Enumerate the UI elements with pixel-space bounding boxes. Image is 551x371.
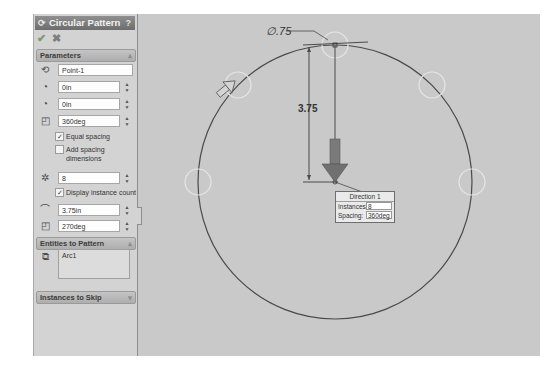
direction-arrow-icon[interactable] (322, 164, 348, 182)
radius-spinner[interactable]: ▲▼ (123, 204, 131, 216)
add-spacing-dimensions-label: Add spacing dimensions (66, 145, 112, 163)
pattern-axis-icon: ⟲ (38, 63, 52, 76)
entities-list[interactable]: Arc1 (58, 249, 130, 279)
panel-title: Circular Pattern (49, 16, 120, 30)
graphics-area[interactable]: ∅.75 3.75 (138, 14, 540, 356)
parameters-header-label: Parameters (40, 50, 81, 61)
center-y-field[interactable]: 0in (58, 98, 120, 110)
callout-instances-row: Instances: 8 (336, 202, 394, 211)
dimension-arrow-icon (307, 175, 311, 180)
cancel-button[interactable]: ✖ (52, 32, 61, 44)
center-y-spinner[interactable]: ▲▼ (123, 98, 131, 110)
center-x-icon: ◔ (38, 80, 52, 93)
angle-icon: ◰ (38, 114, 52, 127)
parameters-group-header[interactable]: Parameters ⩓ (36, 49, 136, 62)
callout-instances-label: Instances: (338, 203, 368, 210)
center-x-spinner[interactable]: ▲▼ (123, 81, 131, 93)
direction-callout: Direction 1 Instances: 8 Spacing: 360deg (335, 191, 395, 223)
direction-arrow-shaft[interactable] (330, 139, 340, 164)
radius-field[interactable]: 3.75in (58, 204, 120, 216)
equal-spacing-checkbox[interactable]: ✓Equal spacing (55, 132, 110, 141)
radius-dimension[interactable]: 3.75 (298, 103, 318, 114)
callout-spacing-row: Spacing: 360deg (336, 211, 394, 220)
property-manager-panel: ⟳ Circular Pattern ? ✔ ✖ Parameters ⩓ ⟲ … (33, 14, 138, 356)
instances-spinner[interactable]: ▲▼ (123, 172, 131, 184)
equal-spacing-label: Equal spacing (66, 132, 110, 141)
angle-spinner[interactable]: ▲▼ (123, 115, 131, 127)
arc-angle-spinner[interactable]: ▲▼ (123, 220, 131, 232)
ok-cancel-bar: ✔ ✖ (37, 32, 61, 44)
callout-title: Direction 1 (336, 192, 394, 202)
instances-to-skip-label: Instances to Skip (40, 292, 102, 303)
checkbox-unchecked-icon[interactable] (55, 145, 64, 154)
solidworks-window: ⟳ Circular Pattern ? ✔ ✖ Parameters ⩓ ⟲ … (33, 14, 540, 356)
callout-spacing-label: Spacing: (338, 212, 363, 219)
panel-title-bar: ⟳ Circular Pattern ? (35, 16, 135, 30)
entities-header-label: Entities to Pattern (40, 238, 104, 249)
instances-icon: ✲ (38, 171, 52, 184)
collapse-chevron-icon[interactable]: ⩓ (128, 50, 132, 61)
circular-pattern-icon: ⟳ (38, 18, 47, 28)
callout-instances-field[interactable]: 8 (366, 202, 392, 210)
radius-icon: ⌒ (38, 203, 52, 216)
help-button[interactable]: ? (126, 16, 132, 30)
instances-field[interactable]: 8 (58, 172, 120, 184)
angle-field[interactable]: 360deg (58, 115, 120, 127)
diameter-leader (288, 31, 328, 40)
expand-chevron-icon[interactable]: ⩔ (128, 292, 132, 303)
checkbox-checked-icon[interactable]: ✓ (55, 188, 64, 197)
display-instance-count-checkbox[interactable]: ✓Display instance count (55, 188, 136, 197)
center-x-field[interactable]: 0in (58, 81, 120, 93)
checkbox-checked-icon[interactable]: ✓ (55, 132, 64, 141)
ok-button[interactable]: ✔ (37, 32, 46, 44)
collapse-chevron-icon[interactable]: ⩓ (128, 238, 132, 249)
instances-to-skip-group-header[interactable]: Instances to Skip ⩔ (36, 291, 136, 304)
callout-spacing-field[interactable]: 360deg (366, 211, 392, 219)
list-item[interactable]: Arc1 (62, 252, 126, 259)
pattern-center-field[interactable]: Point-1 (58, 64, 133, 76)
arc-angle-field[interactable]: 270deg (58, 220, 120, 232)
sketch-canvas[interactable]: ∅.75 3.75 (138, 14, 540, 356)
add-spacing-dimensions-checkbox[interactable]: Add spacing dimensions (55, 145, 112, 163)
arc-angle-icon: ◰ (38, 219, 52, 232)
center-y-icon: ◔ (38, 97, 52, 110)
display-instance-count-label: Display instance count (66, 188, 136, 197)
sketch-entities-icon: ⧉ (38, 250, 52, 263)
